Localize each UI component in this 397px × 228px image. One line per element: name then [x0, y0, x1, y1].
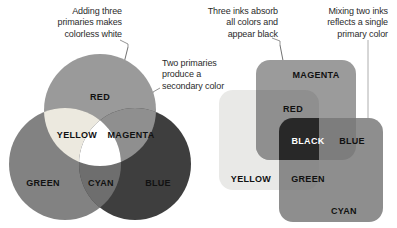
- venn-label-red: RED: [90, 92, 110, 102]
- square-label-green: GREEN: [291, 174, 325, 184]
- venn-label-green: GREEN: [26, 178, 60, 188]
- square-label-yellow: YELLOW: [231, 174, 272, 184]
- annotation-subtractive-black: Three inks absorb all colors and appear …: [178, 6, 278, 40]
- venn-label-blue: BLUE: [145, 178, 171, 188]
- venn-label-yellow: YELLOW: [57, 130, 98, 140]
- square-label-blue: BLUE: [339, 136, 365, 146]
- additive-color-venn: RED YELLOW MAGENTA GREEN CYAN BLUE: [8, 52, 193, 228]
- annotation-additive-white: Adding three primaries makes colorless w…: [6, 6, 122, 40]
- square-label-red: RED: [283, 104, 303, 114]
- annotation-primary-color: Mixing two inks reflects a single primar…: [290, 6, 388, 40]
- subtractive-color-squares: MAGENTA RED BLACK BLUE YELLOW GREEN CYAN: [215, 40, 397, 228]
- leader-line-additive-white: [120, 40, 128, 47]
- venn-label-magenta: MAGENTA: [108, 130, 155, 140]
- figure-canvas: Adding three primaries makes colorless w…: [0, 0, 397, 228]
- square-label-cyan: CYAN: [331, 206, 357, 216]
- square-label-magenta: MAGENTA: [293, 70, 340, 80]
- venn-label-cyan: CYAN: [88, 178, 114, 188]
- square-label-black: BLACK: [292, 136, 325, 146]
